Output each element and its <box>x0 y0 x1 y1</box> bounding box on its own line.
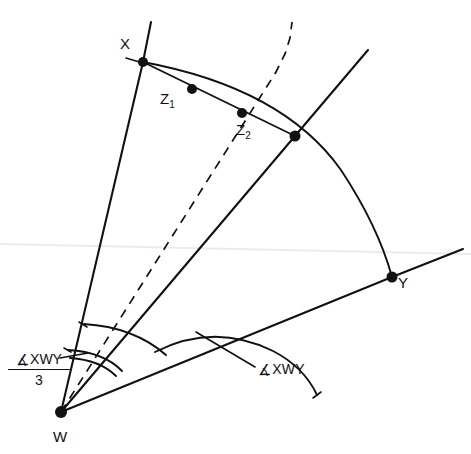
point-dot-junction <box>290 131 301 142</box>
label-point-y: Y <box>398 275 408 290</box>
point-dot-x <box>138 57 148 67</box>
fraction-denominator: 3 <box>8 370 70 388</box>
label-point-x: X <box>120 36 130 51</box>
label-point-z2-subscript: 2 <box>245 130 251 141</box>
label-point-z2-base: Z <box>236 121 245 138</box>
angle-arc-wx-wz2 <box>84 324 166 355</box>
label-point-z2: Z2 <box>236 122 251 141</box>
measured-angle-icon-fraction: ∡ <box>16 351 29 369</box>
scan-artifact-line <box>0 244 471 254</box>
angle-arc-third-outer <box>68 350 122 371</box>
diagram-canvas <box>0 0 471 454</box>
point-dot-z1 <box>187 84 197 94</box>
ray-wx <box>61 22 151 412</box>
measured-angle-icon: ∡ <box>258 362 271 377</box>
label-angle-xwy-over-three: ∡XWY 3 <box>8 350 70 388</box>
ray-wz2 <box>61 50 368 412</box>
ray-wz1-dashed <box>61 22 292 412</box>
point-dot-y <box>387 272 398 283</box>
label-point-z1-base: Z <box>160 90 169 107</box>
point-dot-w <box>55 406 67 418</box>
geometry-diagram: X Y W Z1 Z2 ∡XWY ∡XWY 3 <box>0 0 471 454</box>
label-angle-xwy: ∡XWY <box>258 361 305 376</box>
fraction-numerator: ∡XWY <box>8 350 70 369</box>
label-point-z1: Z1 <box>160 91 175 110</box>
label-point-w: W <box>53 429 67 444</box>
fraction-numerator-text: XWY <box>30 351 62 367</box>
point-dot-z2 <box>237 108 247 118</box>
label-point-z1-subscript: 1 <box>169 99 175 110</box>
label-angle-xwy-text: XWY <box>272 361 305 377</box>
